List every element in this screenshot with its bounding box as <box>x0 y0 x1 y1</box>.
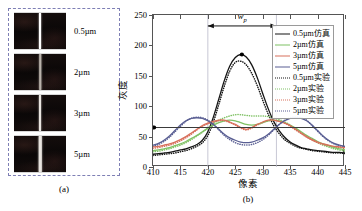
strip-row: 2µm <box>14 54 114 90</box>
x-axis-tick-label: 415 <box>174 168 187 177</box>
strip-row: 3µm <box>14 95 114 131</box>
y-axis-tick <box>149 76 153 77</box>
x-axis-tick-top <box>208 15 209 19</box>
figure-root: 0.5µm2µm3µm5µm (a) 050100150200250 41041… <box>0 0 362 211</box>
panel-a: 0.5µm2µm3µm5µm (a) <box>8 8 124 180</box>
strip-label: 3µm <box>74 109 90 118</box>
y-axis-label: 灰度 <box>119 80 129 100</box>
legend-swatch-icon <box>275 40 290 49</box>
y-axis-tick <box>149 45 153 46</box>
x-axis-tick-top <box>180 15 181 19</box>
threshold-marker-dot <box>153 125 156 129</box>
panel-b: 050100150200250 410415420425430435440445… <box>128 6 358 211</box>
x-axis-tick-label: 440 <box>311 168 324 177</box>
y-axis-tick-label: 150 <box>134 72 147 81</box>
x-axis-tick-label: 410 <box>147 168 160 177</box>
legend-item[interactable]: 5µm实验 <box>275 105 330 116</box>
x-axis-tick-top <box>318 15 319 19</box>
chart-legend: 0.5µm仿真2µm仿真3µm仿真5µm仿真0.5µm实验2µm实验3µm实验5… <box>272 25 334 119</box>
strip-label: 0.5µm <box>74 27 96 36</box>
legend-item[interactable]: 5µm仿真 <box>275 61 330 72</box>
legend-swatch-icon <box>275 51 290 60</box>
wp-annotation-label: wp <box>238 12 247 23</box>
legend-swatch-icon <box>275 95 290 104</box>
x-axis-tick-label: 445 <box>339 168 352 177</box>
panel-b-caption: (b) <box>152 194 344 204</box>
strip-bright-line <box>39 13 41 49</box>
panel-a-caption: (a) <box>8 184 120 194</box>
strip-label: 2µm <box>74 68 90 77</box>
y-axis-tick <box>149 137 153 138</box>
y-axis-tick-label: 250 <box>134 11 147 20</box>
strip-label: 5µm <box>74 150 90 159</box>
x-axis-tick-top <box>290 15 291 19</box>
strip-bright-line <box>39 54 41 90</box>
legend-swatch-icon <box>275 84 290 93</box>
x-axis-tick-top <box>345 15 346 19</box>
strip-image <box>14 94 66 132</box>
wp-subscript: p <box>244 16 247 23</box>
x-axis-tick-label: 430 <box>256 168 269 177</box>
legend-item-label: 2µm实验 <box>293 85 324 93</box>
legend-item-label: 3µm实验 <box>293 96 324 104</box>
y-axis-tick-label: 100 <box>134 102 147 111</box>
legend-item-label: 5µm仿真 <box>293 63 324 71</box>
strip-row: 0.5µm <box>14 13 114 49</box>
strip-row: 5µm <box>14 136 114 172</box>
x-axis-tick-top <box>235 15 236 19</box>
x-axis-tick-top <box>153 15 154 19</box>
x-axis-label: 像素 <box>152 180 344 190</box>
y-axis-tick-label: 200 <box>134 41 147 50</box>
strip-image <box>14 12 66 50</box>
legend-item[interactable]: 3µm实验 <box>275 94 330 105</box>
x-axis-tick-top <box>263 15 264 19</box>
strip-image <box>14 135 66 173</box>
strip-bright-line <box>39 95 41 131</box>
legend-item[interactable]: 2µm实验 <box>275 83 330 94</box>
legend-item[interactable]: 3µm仿真 <box>275 50 330 61</box>
y-axis-tick-label: 50 <box>139 132 148 141</box>
legend-swatch-icon <box>275 73 290 82</box>
strip-image <box>14 53 66 91</box>
legend-swatch-icon <box>275 106 290 115</box>
x-axis-tick-label: 420 <box>201 168 214 177</box>
x-axis-tick-label: 425 <box>229 168 242 177</box>
legend-swatch-icon <box>275 62 290 71</box>
y-axis-tick <box>149 106 153 107</box>
peak-marker-dot <box>240 52 244 56</box>
x-axis-tick-label: 435 <box>284 168 297 177</box>
legend-item[interactable]: 2µm仿真 <box>275 39 330 50</box>
series-line <box>153 115 345 152</box>
legend-item-label: 5µm实验 <box>293 107 324 115</box>
legend-item-label: 0.5µm仿真 <box>293 30 330 38</box>
legend-item-label: 0.5µm实验 <box>293 74 330 82</box>
strip-bright-line <box>39 136 42 172</box>
legend-item[interactable]: 0.5µm实验 <box>275 72 330 83</box>
legend-item[interactable]: 0.5µm仿真 <box>275 28 330 39</box>
legend-swatch-icon <box>275 29 290 38</box>
legend-item-label: 3µm仿真 <box>293 52 324 60</box>
plot-area: 050100150200250 410415420425430435440445… <box>152 14 344 166</box>
wp-arrow-head <box>208 24 214 29</box>
legend-item-label: 2µm仿真 <box>293 41 324 49</box>
